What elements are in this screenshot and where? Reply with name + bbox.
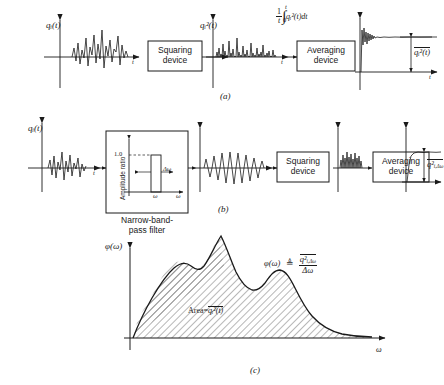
panel-a-output-expression: 1t t ∫ 0 qᵢ²(t)dt [276,8,308,26]
panel-b-filter-bandwidth-label: Δω [163,166,171,173]
panel-b-caption: (b) [218,205,229,214]
panel-c-definition: φ(ω) ≜ q²i,Δω Δω [264,254,317,275]
figure-canvas [0,0,444,385]
psd-curve-area [133,236,372,338]
panel-c-area-annotation: Area=qᵢ²(t) [188,306,223,315]
panel-c [124,236,385,350]
panel-c-x-axis-label: ω [376,346,382,354]
panel-b-input-label: qᵢ(t) [28,124,42,133]
panel-b-averaging-device-label: Averaging device [373,157,429,176]
panel-a-caption: (a) [220,92,231,101]
panel-b-filter-y-label: Amplitude ratio [120,157,127,200]
panel-a-result-label: qᵢ²(t) [414,47,430,57]
panel-b-input-plot [28,123,100,192]
panel-b-squared-plot [333,128,372,192]
panel-a-output-axis-label: t [429,74,431,81]
panel-b-filter-x-axis-label: ω [176,193,181,200]
panel-a-mid-axis-label: t [281,59,283,66]
panel-b-filter-gain-label: 1.0 [114,151,122,158]
panel-a-input-plot [44,20,139,88]
panel-b-squaring-device-label: Squaring device [277,157,329,176]
panel-c-caption: (c) [250,366,260,375]
figure-root: qᵢ(t) t Squaring device qᵢ²(t) t Averagi… [0,0,444,385]
panel-a-squaring-device-label: Squaring device [148,46,202,65]
panel-a-squared-plot [206,20,288,88]
panel-b-result-label: q²i,Δω [427,159,443,170]
panel-b-filter-caption: Narrow-band- pass filter [98,216,196,235]
panel-a-mid-label: qᵢ²(t) [200,21,217,30]
panel-b-filtered-plot [196,128,272,192]
panel-a-input-axis-label: t [132,59,134,66]
panel-a-averaging-device-label: Averaging device [297,46,355,65]
panel-a [44,18,437,90]
panel-b-filter-center-label: ω [153,193,158,200]
panel-b-input-axis-label: t [93,170,95,177]
panel-c-y-axis-label: φ(ω) [105,242,122,251]
panel-b-filter-inner-plot [124,139,183,196]
panel-a-input-label: qᵢ(t) [46,21,60,30]
